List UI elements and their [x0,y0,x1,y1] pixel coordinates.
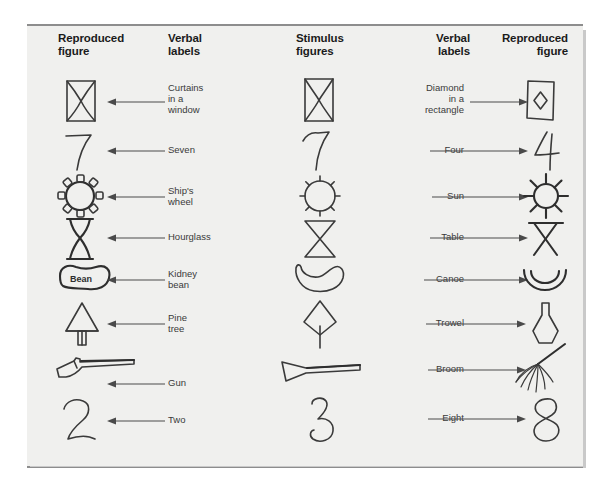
figure-trowel [526,300,566,348]
figure-table [524,218,568,260]
verbal-label-curtains: Curtains in a window [168,82,254,115]
arrow-right-row-5 [424,275,528,285]
verbal-label-ships-wheel: Ship's wheel [168,185,254,207]
figure-stimulus-crescent [292,262,348,296]
arrow-left-row-3 [107,192,165,202]
figure-stimulus-circle-spokes [298,174,342,218]
arrow-left-row-8 [107,416,165,426]
verbal-label-diamond: Diamond in a rectangle [380,82,464,115]
figure-diamond-in-a-rectangle [520,78,564,124]
header-verbal-labels-right: Verbal labels [380,32,470,57]
figure-stimulus-two-triangles [298,218,342,260]
figure-stimulus-curtains-diamond [296,76,342,124]
header-verbal-labels-left: Verbal labels [168,32,258,57]
header-reproduced-figure-right: Reproduced figure [468,32,568,57]
figure-stimulus-seven [298,128,338,172]
figure-curtains-in-a-window [58,78,104,124]
figure-two [58,396,102,444]
arrow-right-row-4 [430,233,528,243]
figure-kidney-bean: Bean [54,262,114,294]
arrow-left-row-5 [107,275,165,285]
verbal-label-kidney-bean: Kidney bean [168,268,254,290]
figure-stimulus-tapered-bar [278,352,364,384]
arrow-left-row-1 [107,97,165,107]
arrow-left-row-7 [107,379,165,389]
verbal-label-gun: Gun [168,377,254,388]
figure-stimulus-diamond-stem [298,298,342,350]
verbal-label-seven: Seven [168,144,254,155]
arrow-right-row-8 [428,414,526,424]
figure-sun [522,172,570,220]
figure-hourglass [62,216,98,262]
arrow-right-row-3 [432,192,528,202]
figure-eight [526,394,570,446]
figure-seven [60,130,100,172]
verbal-label-pine-tree: Pine tree [168,312,254,334]
arrow-left-row-2 [107,146,165,156]
figure-four [528,128,568,172]
figure-broom [508,342,572,394]
header-reproduced-figure-left: Reproduced figure [58,32,168,57]
figure-pine-tree [60,300,104,348]
figure-gun [54,350,138,382]
figure-page: Reproduced figure Verbal labels Stimulus… [0,0,615,488]
panel-shadow-right [583,30,586,468]
figure-ships-wheel [54,172,106,220]
figure-stimulus-two-eight [302,394,342,446]
verbal-label-two: Two [168,414,254,425]
verbal-label-hourglass: Hourglass [168,231,254,242]
kidney-bean-inner-text: Bean [70,274,92,284]
arrow-left-row-4 [107,233,165,243]
arrow-right-row-2 [430,146,528,156]
arrow-left-row-6 [107,319,165,329]
arrow-right-row-6 [426,319,526,329]
figure-canoe [520,266,570,294]
header-stimulus-figures: Stimulus figures [296,32,386,57]
